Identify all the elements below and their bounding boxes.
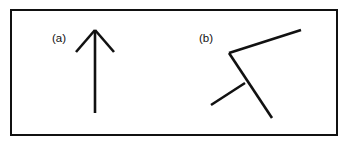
panel-b-label: (b) bbox=[199, 32, 213, 44]
figure-container: (a) (b) bbox=[0, 0, 349, 145]
figure-border bbox=[11, 10, 337, 135]
panel-a-label: (a) bbox=[52, 32, 66, 44]
figure-canvas: (a) (b) bbox=[0, 0, 349, 145]
